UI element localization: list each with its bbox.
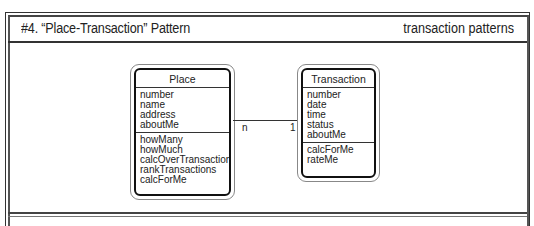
service: calcForMe	[140, 175, 229, 185]
attribute: aboutMe	[140, 120, 229, 130]
frame-bottom-divider	[8, 212, 527, 214]
pattern-title: #4. “Place-Transaction” Pattern	[21, 20, 190, 36]
class-place: Place number name address aboutMe howMan…	[130, 64, 235, 200]
services-section: calcForMe rateMe	[303, 142, 374, 167]
services-section: howMany howMuch calcOverTransactions ran…	[136, 132, 229, 187]
association-line	[233, 120, 297, 121]
class-transaction: Transaction number date time status abou…	[297, 64, 380, 182]
service: rateMe	[307, 155, 374, 165]
multiplicity-place: n	[242, 122, 248, 133]
attributes-section: number name address aboutMe	[136, 88, 229, 132]
attribute: aboutMe	[307, 130, 374, 140]
class-transaction-body: Transaction number date time status abou…	[301, 68, 376, 178]
class-name: Place	[136, 70, 229, 88]
attributes-section: number date time status aboutMe	[303, 88, 374, 142]
class-place-body: Place number name address aboutMe howMan…	[134, 68, 231, 196]
multiplicity-transaction: 1	[290, 122, 296, 133]
class-name: Transaction	[303, 70, 374, 88]
header-divider	[8, 41, 527, 43]
pattern-category: transaction patterns	[403, 20, 514, 36]
next-frame-edge	[8, 217, 529, 226]
